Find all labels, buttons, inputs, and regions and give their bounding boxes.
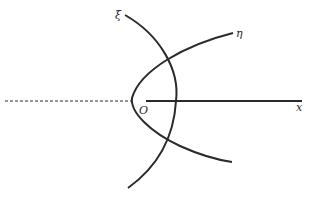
eta-label: η [236, 27, 243, 40]
origin-label: O [139, 104, 148, 117]
coordinate-diagram: ξ η O x [0, 0, 317, 199]
x-axis-label: x [296, 101, 303, 114]
xi-label: ξ [115, 9, 122, 22]
eta-curve [132, 33, 233, 162]
